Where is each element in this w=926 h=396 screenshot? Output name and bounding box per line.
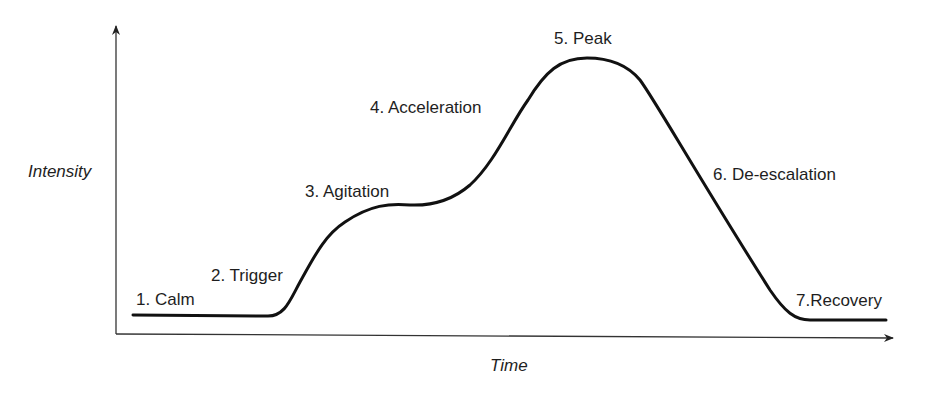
phase-label-agitation: 3. Agitation	[305, 183, 389, 200]
phase-label-trigger: 2. Trigger	[211, 267, 283, 284]
phase-label-calm: 1. Calm	[136, 291, 195, 308]
phase-label-acceleration: 4. Acceleration	[370, 99, 482, 116]
phase-label-recovery: 7.Recovery	[796, 292, 882, 309]
escalation-cycle-diagram	[0, 0, 926, 396]
x-axis	[116, 334, 893, 338]
x-axis-label: Time	[490, 357, 528, 374]
y-axis-label: Intensity	[28, 163, 91, 180]
phase-label-deescalation: 6. De-escalation	[713, 166, 836, 183]
phase-label-peak: 5. Peak	[554, 30, 612, 47]
